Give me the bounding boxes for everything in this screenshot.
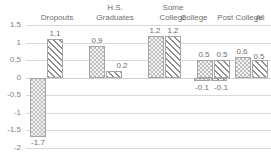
data-label-some-college-series2: 1.2: [160, 27, 186, 35]
category-label-all: All: [228, 13, 271, 23]
gridline: [26, 148, 271, 149]
bar-some-college-series2[interactable]: [165, 36, 181, 78]
bar-group-all: 0.6 0.5: [231, 25, 271, 148]
data-label-dropouts-series1: -1.7: [25, 139, 51, 147]
category-axis-labels: Dropouts H.S. Graduates Some College Col…: [26, 0, 271, 25]
data-label-hs-graduates-series1: 0.9: [84, 37, 110, 45]
data-label-all-series2: 0.5: [246, 53, 271, 61]
y-tick-label: 0: [17, 74, 21, 82]
bar-dropouts-series1[interactable]: [30, 78, 46, 138]
bar-post-college-series1[interactable]: [194, 78, 210, 82]
bar-all-series2[interactable]: [252, 60, 268, 78]
category-label-line1: Some: [144, 3, 202, 13]
bar-hs-graduates-series2[interactable]: [106, 71, 122, 78]
bar-group-dropouts: -1.7 1.1: [26, 25, 66, 148]
category-label-text: Dropouts: [41, 13, 73, 22]
bar-group-hs-graduates: 0.9 0.2: [85, 25, 125, 148]
y-tick-label: -0.5: [7, 91, 21, 99]
category-label-line2: Graduates: [84, 13, 146, 23]
y-tick-label: 1.5: [10, 21, 21, 29]
y-tick-label: -1: [14, 109, 21, 117]
plot-area: -1.7 1.1 0.9 0.2 1.2 1.2 0.5 0.5: [26, 25, 271, 148]
y-tick-label: 0.5: [10, 56, 21, 64]
bar-group-post-college: -0.1 -0.1: [190, 25, 230, 148]
y-axis: 1.5 1 0.5 0 -0.5 -1 -1.5 -2: [0, 25, 24, 148]
y-tick-label: 1: [17, 39, 21, 47]
bar-chart: Dropouts H.S. Graduates Some College Col…: [0, 0, 271, 158]
data-label-dropouts-series2: 1.1: [42, 30, 68, 38]
category-label-dropouts: Dropouts: [24, 13, 90, 23]
bar-dropouts-series2[interactable]: [47, 39, 63, 78]
category-label-hs-graduates: H.S. Graduates: [84, 3, 146, 22]
bar-group-some-college: 1.2 1.2: [144, 25, 184, 148]
category-label-line1: H.S.: [84, 3, 146, 13]
bar-hs-graduates-series1[interactable]: [89, 46, 105, 78]
data-label-hs-graduates-series2: 0.2: [109, 62, 135, 70]
y-tick-label: -2: [14, 144, 21, 152]
bar-post-college-series2[interactable]: [211, 78, 227, 82]
category-label-text: All: [256, 13, 265, 22]
bar-some-college-series1[interactable]: [148, 36, 164, 78]
y-tick-label: -1.5: [7, 126, 21, 134]
